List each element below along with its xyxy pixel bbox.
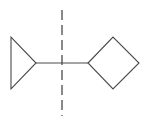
chemical-structure-diagram <box>0 0 146 123</box>
cyclobutane-ring <box>88 37 139 89</box>
cyclopropane-ring <box>11 37 36 89</box>
